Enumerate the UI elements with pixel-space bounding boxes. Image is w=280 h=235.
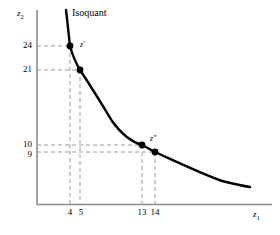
x-tick-label-14: 14: [147, 208, 163, 217]
data-point-14-9: [152, 149, 159, 156]
x-axis-label-sub: 1: [257, 214, 260, 221]
isoquant-curve: [66, 10, 250, 187]
x-tick-label-5: 5: [73, 208, 89, 217]
plot-canvas: [0, 0, 280, 235]
data-point-5-21: [77, 67, 84, 74]
x-axis-label: z1: [253, 210, 260, 221]
point-label-z-double-prime: z″: [150, 135, 156, 143]
y-axis-label: z2: [17, 9, 24, 20]
isoquant-figure: z2 z1 Isoquant z′ z″ 24 21 10 9 4 5 13 1…: [0, 0, 280, 235]
data-point-z-prime: [67, 43, 74, 50]
y-tick-label-21: 21: [12, 65, 32, 74]
y-tick-label-24: 24: [12, 41, 32, 50]
point-label-z-prime: z′: [80, 41, 85, 49]
data-point-z-double-prime: [139, 142, 146, 149]
y-tick-label-9: 9: [12, 150, 32, 159]
isoquant-curve-label: Isoquant: [72, 8, 106, 18]
y-axis-label-sub: 2: [21, 13, 24, 20]
y-tick-label-10: 10: [12, 140, 32, 149]
